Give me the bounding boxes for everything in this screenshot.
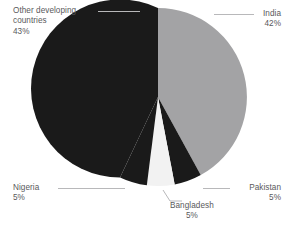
- chart-footnote: [14, 236, 276, 244]
- pie-label-other-value: 43%: [13, 27, 76, 37]
- pie-label-nigeria-value: 5%: [13, 193, 39, 203]
- pie-label-nigeria-name: Nigeria: [13, 183, 39, 192]
- pie-label-pakistan-value: 5%: [249, 193, 281, 203]
- pie-label-nigeria: Nigeria 5%: [13, 183, 39, 204]
- pie-label-india: India 42%: [263, 9, 281, 30]
- pie-label-pakistan: Pakistan 5%: [249, 183, 281, 204]
- leader-line-bangladesh: [163, 190, 182, 201]
- pie-label-pakistan-name: Pakistan: [249, 183, 281, 192]
- pie-label-other-line2: countries: [13, 16, 47, 25]
- pie-label-other-developing-countries: Other developing countries 43%: [13, 6, 76, 37]
- pie-label-other-line1: Other developing: [13, 6, 76, 15]
- pie-label-india-value: 42%: [263, 19, 281, 29]
- pie-label-bangladesh: Bangladesh 5%: [170, 201, 214, 222]
- pie-label-india-name: India: [263, 9, 281, 18]
- pie-label-bangladesh-value: 5%: [170, 211, 214, 221]
- pie-label-bangladesh-name: Bangladesh: [170, 201, 214, 210]
- pie-chart-figure: Other developing countries 43% India 42%…: [0, 0, 287, 244]
